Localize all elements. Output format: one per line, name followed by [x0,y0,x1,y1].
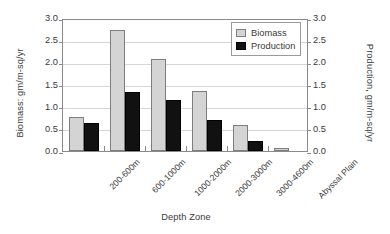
y-axis-ticks-left: 0.00.51.01.52.02.53.0 [28,0,58,234]
bar-biomass [110,30,125,151]
y-tick-label-right: 3.0 [313,14,343,23]
tick-mark [59,130,63,131]
tick-mark [59,153,63,154]
tick-mark [307,42,311,43]
x-tick-label: 2000-3000m [233,157,274,198]
x-tick-label: 200-600m [107,157,141,191]
legend-swatch-biomass [236,29,246,37]
bar-biomass [69,117,84,151]
bar-production [125,92,140,151]
bar-group [104,20,145,151]
y-tick-label-left: 0.5 [28,125,58,134]
bar-production [207,120,222,151]
y-tick-label-left: 3.0 [28,14,58,23]
bar-group [186,20,227,151]
x-tick-mark [104,146,105,151]
tick-mark [307,64,311,65]
tick-mark [307,130,311,131]
y-tick-label-left: 2.5 [28,36,58,45]
bar-group [63,20,104,151]
bar-biomass [274,148,289,151]
bar-production [248,141,263,151]
y-tick-label-left: 1.0 [28,103,58,112]
x-tick-mark [227,146,228,151]
tick-mark [59,42,63,43]
tick-mark [59,20,63,21]
y-axis-label-right: Production, gm/m-sq/yr [365,28,375,158]
x-tick-mark [145,146,146,151]
legend-item-production: Production [236,39,295,52]
bar-production [166,100,181,151]
tick-mark [307,20,311,21]
bar-biomass [192,91,207,151]
legend-swatch-production [236,42,246,50]
tick-mark [307,108,311,109]
x-tick-label: 1000-2000m [192,157,233,198]
bar-biomass [151,59,166,151]
y-tick-label-right: 2.5 [313,36,343,45]
bar-biomass [233,125,248,151]
x-tick-mark [186,146,187,151]
x-tick-mark [268,146,269,151]
y-axis-ticks-right: 0.00.51.01.52.02.53.0 [313,0,343,234]
tick-mark [59,108,63,109]
legend: Biomass Production [231,22,301,56]
bar-production [84,123,99,151]
tick-mark [307,86,311,87]
legend-label-biomass: Biomass [251,28,287,38]
y-tick-label-right: 0.5 [313,125,343,134]
y-tick-label-left: 2.0 [28,58,58,67]
x-tick-label: 600-1000m [149,157,187,195]
bar-chart-figure: Biomass: gm/m-sq/yr Production, gm/m-sq/… [0,0,390,234]
tick-mark [307,153,311,154]
bar-group [145,20,186,151]
x-tick-label: 3000-4600m [274,157,315,198]
y-tick-label-left: 1.5 [28,81,58,90]
y-tick-label-right: 2.0 [313,58,343,67]
tick-mark [59,64,63,65]
y-tick-label-left: 0.0 [28,147,58,156]
y-tick-label-right: 0.0 [313,147,343,156]
x-axis-label: Depth Zone [60,212,312,222]
legend-label-production: Production [251,41,295,51]
tick-mark [59,86,63,87]
y-axis-label-left: Biomass: gm/m-sq/yr [15,28,25,158]
y-tick-label-right: 1.0 [313,103,343,112]
legend-item-biomass: Biomass [236,26,295,39]
y-tick-label-right: 1.5 [313,81,343,90]
